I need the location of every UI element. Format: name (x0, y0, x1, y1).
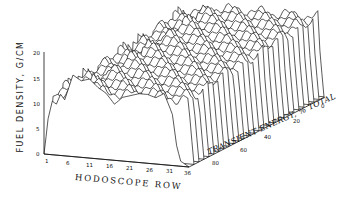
y-tick-15: 15 (33, 76, 40, 82)
x-tick-1: 1 (45, 158, 49, 164)
x-tick-6: 6 (66, 160, 70, 166)
y-axis-label: FUEL DENSITY, G/CM (16, 37, 25, 157)
x-tick-21: 21 (126, 165, 133, 171)
z-tick-40: 40 (264, 134, 271, 140)
y-tick-0: 0 (36, 151, 40, 157)
z-tick-60: 60 (240, 147, 247, 153)
z-tick-0: 0 (321, 103, 325, 109)
x-tick-16: 16 (106, 163, 113, 169)
x-tick-36: 36 (184, 170, 191, 176)
x-tick-31: 31 (166, 168, 173, 174)
y-tick-10: 10 (33, 101, 40, 107)
y-tick-5: 5 (36, 126, 40, 132)
density-profiles (44, 4, 324, 168)
z-tick-20: 20 (293, 118, 300, 124)
x-tick-26: 26 (146, 167, 153, 173)
z-tick-80: 80 (212, 160, 219, 166)
x-tick-11: 11 (86, 162, 93, 168)
y-tick-20: 20 (33, 50, 40, 56)
